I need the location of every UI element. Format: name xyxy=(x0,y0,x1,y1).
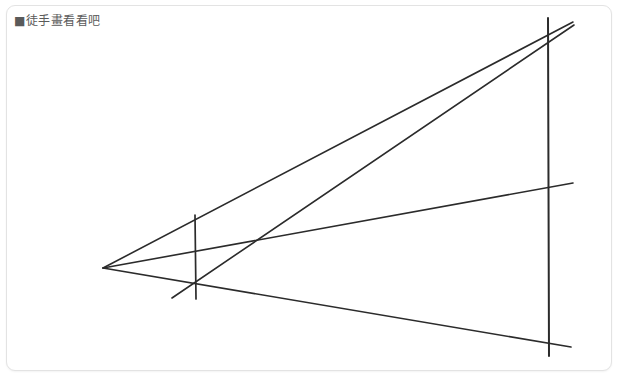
perspective-ray-upper xyxy=(103,22,573,268)
vertical-near-edge xyxy=(195,215,196,299)
sketch-window: ■徒手畫看看吧 xyxy=(0,0,621,384)
diagonal-edge-line xyxy=(172,25,574,298)
perspective-ray-middle xyxy=(103,183,573,268)
line-group xyxy=(103,18,574,356)
perspective-drawing xyxy=(0,0,621,384)
perspective-ray-lower xyxy=(103,268,571,347)
vertical-far-edge xyxy=(548,18,549,356)
